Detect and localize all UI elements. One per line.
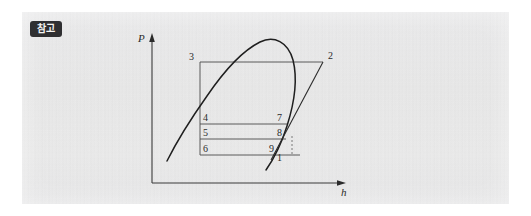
x-axis-label: h <box>341 186 347 198</box>
page-root: 참고 P h 1 2 <box>0 0 531 216</box>
state-label-9: 9 <box>269 143 274 154</box>
state-point-labels: 1 2 3 4 5 6 7 8 9 <box>189 50 333 163</box>
state-label-4: 4 <box>203 112 208 123</box>
y-axis-arrow-icon <box>149 33 155 42</box>
state-label-8: 8 <box>277 127 282 138</box>
compression-line-1-2 <box>271 62 323 160</box>
state-label-3: 3 <box>189 51 194 62</box>
state-label-6: 6 <box>203 143 208 154</box>
x-axis-arrow-icon <box>337 180 346 186</box>
state-label-2: 2 <box>328 50 333 61</box>
state-label-5: 5 <box>203 127 208 138</box>
y-axis-label: P <box>137 32 145 44</box>
ph-diagram: P h 1 2 3 4 5 6 7 8 9 <box>0 0 531 216</box>
state-label-1: 1 <box>277 152 282 163</box>
cycle-lines-group <box>200 62 323 155</box>
axes-group <box>149 33 346 186</box>
state-label-7: 7 <box>277 112 282 123</box>
